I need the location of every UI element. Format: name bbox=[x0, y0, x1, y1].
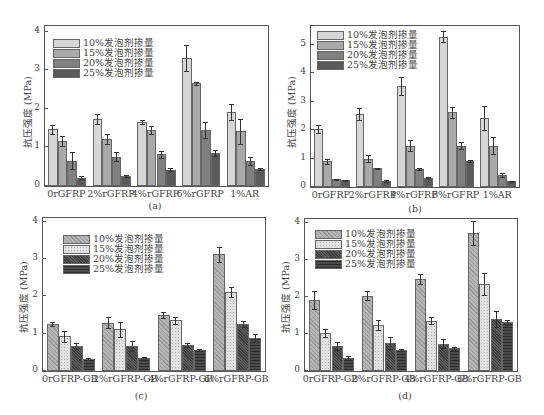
x-category-label: 1%AR bbox=[462, 189, 532, 200]
error-cap bbox=[418, 274, 423, 275]
chart-d: 抗压强度 (MPa) 10%发泡剂掺量15%发泡剂掺量20%发泡剂掺量25%发泡… bbox=[272, 205, 544, 415]
error-cap bbox=[441, 339, 446, 340]
error-cap bbox=[168, 168, 173, 169]
y-tick-mark bbox=[43, 295, 46, 296]
error-cap bbox=[159, 151, 164, 152]
bar bbox=[449, 348, 460, 371]
error-cap bbox=[217, 247, 222, 248]
error-cap bbox=[114, 161, 119, 162]
bar bbox=[415, 279, 426, 371]
error-cap bbox=[459, 149, 464, 150]
error-cap bbox=[213, 150, 218, 151]
legend: 10%发泡剂掺量15%发泡剂掺量20%发泡剂掺量25%发泡剂掺量 bbox=[315, 229, 416, 269]
bar bbox=[397, 86, 406, 187]
error-cap bbox=[229, 297, 234, 298]
error-cap bbox=[450, 118, 455, 119]
error-cap bbox=[312, 291, 317, 292]
error-cap bbox=[106, 328, 111, 329]
bar bbox=[415, 169, 424, 187]
bar bbox=[47, 324, 59, 371]
bar bbox=[102, 323, 114, 371]
error-bar bbox=[250, 157, 251, 165]
y-tick-mark bbox=[305, 370, 308, 371]
bar bbox=[373, 168, 382, 187]
error-cap bbox=[173, 324, 178, 325]
error-cap bbox=[417, 170, 422, 171]
legend: 10%发泡剂掺量15%发泡剂掺量20%发泡剂掺量25%发泡剂掺量 bbox=[317, 30, 418, 70]
bar bbox=[448, 112, 457, 187]
error-cap bbox=[509, 182, 514, 183]
error-cap bbox=[429, 324, 434, 325]
error-bar bbox=[484, 273, 485, 295]
y-tick-mark bbox=[45, 108, 48, 109]
error-cap bbox=[482, 130, 487, 131]
error-cap bbox=[241, 327, 246, 328]
bar bbox=[466, 161, 475, 187]
error-cap bbox=[450, 107, 455, 108]
error-cap bbox=[376, 330, 381, 331]
bar bbox=[255, 169, 265, 186]
legend-swatch-icon bbox=[317, 51, 344, 60]
error-cap bbox=[203, 122, 208, 123]
error-bar bbox=[410, 140, 411, 151]
error-cap bbox=[248, 157, 253, 158]
y-tick-label: 1 bbox=[24, 327, 38, 337]
x-category-label: 6%rGFRP-GB bbox=[455, 373, 525, 384]
error-cap bbox=[238, 144, 243, 145]
error-cap bbox=[62, 342, 67, 343]
plot-area: 10%发泡剂掺量15%发泡剂掺量20%发泡剂掺量25%发泡剂掺量 bbox=[44, 25, 269, 187]
error-bar bbox=[420, 274, 421, 284]
error-cap bbox=[149, 126, 154, 127]
error-cap bbox=[50, 322, 55, 323]
error-cap bbox=[343, 181, 348, 182]
y-tick-label: 4 bbox=[292, 66, 306, 76]
error-cap bbox=[184, 71, 189, 72]
legend-swatch-icon bbox=[53, 69, 80, 78]
error-cap bbox=[194, 82, 199, 83]
error-cap bbox=[418, 284, 423, 285]
error-bar bbox=[116, 152, 117, 160]
y-tick-mark bbox=[311, 101, 314, 102]
error-cap bbox=[217, 262, 222, 263]
legend-item: 25%发泡剂掺量 bbox=[315, 259, 416, 269]
legend-swatch-icon bbox=[53, 49, 80, 58]
error-bar bbox=[175, 317, 176, 324]
y-tick-label: 3 bbox=[286, 253, 300, 263]
error-cap bbox=[50, 326, 55, 327]
bar bbox=[502, 322, 513, 371]
bar bbox=[225, 292, 237, 371]
error-cap bbox=[500, 173, 505, 174]
y-tick-mark bbox=[45, 69, 48, 70]
error-cap bbox=[388, 349, 393, 350]
plot-area: 10%发泡剂掺量15%发泡剂掺量20%发泡剂掺量25%发泡剂掺量 bbox=[310, 25, 520, 188]
error-cap bbox=[316, 133, 321, 134]
y-tick-mark bbox=[311, 158, 314, 159]
legend-swatch-icon bbox=[63, 255, 90, 264]
y-tick-label: 2 bbox=[24, 289, 38, 299]
error-cap bbox=[229, 287, 234, 288]
error-bar bbox=[473, 221, 474, 245]
y-tick-label: 1 bbox=[286, 327, 300, 337]
error-cap bbox=[471, 245, 476, 246]
error-cap bbox=[184, 45, 189, 46]
bar bbox=[439, 37, 448, 187]
error-bar bbox=[219, 247, 220, 262]
chart-caption: (d) bbox=[390, 390, 420, 401]
error-cap bbox=[60, 146, 65, 147]
x-category-label: 1%AR bbox=[210, 188, 280, 199]
error-bar bbox=[64, 331, 65, 342]
error-cap bbox=[323, 337, 328, 338]
error-cap bbox=[441, 348, 446, 349]
y-axis-label: 抗压强度 (MPa) bbox=[284, 76, 298, 148]
error-cap bbox=[118, 337, 123, 338]
error-cap bbox=[130, 351, 135, 352]
bar bbox=[479, 284, 490, 371]
error-cap bbox=[491, 137, 496, 138]
error-bar bbox=[314, 291, 315, 309]
error-cap bbox=[258, 170, 263, 171]
bar bbox=[227, 112, 237, 186]
error-cap bbox=[241, 321, 246, 322]
error-cap bbox=[384, 180, 389, 181]
error-cap bbox=[95, 114, 100, 115]
y-tick-mark bbox=[43, 221, 46, 222]
